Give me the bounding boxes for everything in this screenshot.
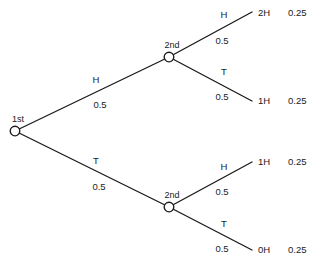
tree-node-1st-0 (10, 126, 20, 136)
branch-probability-label-stage1-0: 0.5 (93, 99, 106, 110)
diagram-background (0, 0, 323, 265)
probability-tree-diagram: H0.5T0.5 H0.5T0.5H0.5T0.5 1st2nd2nd 2H0.… (0, 0, 323, 265)
branch-outcome-label-stage2-1: T (221, 66, 227, 77)
result-probability-0: 0.25 (288, 7, 307, 18)
result-outcome-label-2: 1H (258, 156, 270, 167)
tree-node-2nd-1 (164, 52, 174, 62)
result-outcome-label-3: 0H (258, 244, 270, 255)
branch-probability-label-stage1-1: 0.5 (92, 181, 105, 192)
node-label-2nd-2: 2nd (164, 190, 179, 200)
result-outcome-label-1: 1H (258, 95, 270, 106)
branch-outcome-label-stage1-0: H (93, 74, 100, 85)
result-outcome-label-0: 2H (258, 7, 270, 18)
branch-outcome-label-stage2-3: T (221, 218, 227, 229)
result-probability-2: 0.25 (288, 156, 307, 167)
branch-outcome-label-stage2-2: H (221, 161, 228, 172)
branch-probability-label-stage2-3: 0.5 (215, 243, 228, 254)
branch-probability-label-stage2-0: 0.5 (215, 35, 228, 46)
node-label-2nd-1: 2nd (164, 40, 179, 50)
tree-node-2nd-2 (164, 202, 174, 212)
branch-outcome-label-stage1-1: T (93, 155, 99, 166)
node-label-1st-0: 1st (12, 114, 25, 124)
branch-outcome-label-stage2-0: H (221, 9, 228, 20)
branch-probability-label-stage2-1: 0.5 (215, 91, 228, 102)
branch-probability-label-stage2-2: 0.5 (215, 186, 228, 197)
result-probability-1: 0.25 (288, 95, 307, 106)
result-probability-3: 0.25 (288, 244, 307, 255)
